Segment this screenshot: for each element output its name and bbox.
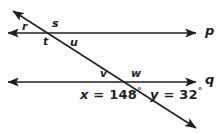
equation-x-equals: = bbox=[93, 87, 104, 102]
equation-y-value: 32 bbox=[179, 87, 198, 102]
geometry-canvas bbox=[0, 0, 224, 134]
angle-label-s: s bbox=[52, 18, 59, 29]
equation-x-value: 148 bbox=[109, 87, 137, 102]
angle-label-r: r bbox=[22, 21, 27, 32]
angle-label-t: t bbox=[43, 36, 48, 47]
equation-y-angle: y = 32° bbox=[150, 88, 202, 101]
angle-label-u: u bbox=[70, 37, 78, 48]
equation-x-angle: x = 148° bbox=[80, 88, 142, 101]
angle-label-v: v bbox=[100, 68, 107, 79]
degree-symbol-icon-x: ° bbox=[137, 86, 142, 96]
line-label-q: q bbox=[205, 73, 214, 86]
equation-x-variable: x bbox=[80, 87, 89, 102]
equation-y-equals: = bbox=[163, 87, 174, 102]
equation-y-variable: y bbox=[150, 87, 159, 102]
degree-symbol-icon-y: ° bbox=[198, 86, 203, 96]
angle-label-w: w bbox=[131, 68, 141, 79]
line-label-p: p bbox=[205, 24, 214, 37]
geometry-figure: p q r s t u v w x = 148° y = 32° bbox=[0, 0, 224, 134]
